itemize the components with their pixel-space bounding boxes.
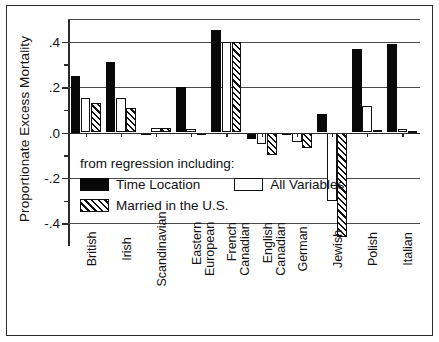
bar [302,133,312,149]
legend-lead-text: from regression including: [80,156,235,171]
x-axis-label-line: Jewish [332,230,345,268]
zero-baseline [68,133,420,134]
y-tick-label: -.4 [44,216,60,231]
x-axis-label: FrenchCanadian [209,249,244,337]
x-axis-label-line: German [297,226,310,271]
legend-row-2: Married in the U.S. [80,195,380,216]
bar [91,103,101,133]
legend-swatch-all-variables [234,178,263,191]
legend-label-married-in-us: Married in the U.S. [116,198,229,213]
legend-row-1: Time Location All Variables [80,174,380,195]
x-axis-label: EasternEuropean [174,249,209,337]
x-axis-label-line: Scandinavian [156,211,169,286]
y-tick-label: -.2 [44,170,60,185]
bar [106,62,116,132]
x-axis-label: British [68,249,103,337]
y-tick-label: .0 [49,125,60,140]
bar [211,30,221,132]
legend-label-time-location: Time Location [116,177,200,192]
bar [71,76,81,133]
x-axis-label: EnglishCanadian [244,249,279,337]
bar [126,108,136,133]
x-axis-label: Irish [103,249,138,337]
bar [176,87,186,132]
plot-area: .4.2.0-.2-.4 from regression including: … [68,19,420,246]
x-axis-label: German [279,249,314,337]
x-axis-label-line: Italian [402,232,415,265]
x-axis-label: Italian [385,249,420,337]
y-tick-label: .4 [49,34,60,49]
bar [387,44,397,133]
legend-label-all-variables: All Variables [270,177,344,192]
bar [116,98,126,132]
x-axis-label: Jewish [314,249,349,337]
x-axis-label-line: Eastern [191,222,204,276]
bar [317,114,327,132]
chart-legend: from regression including: Time Location… [80,153,380,216]
bar [352,49,362,133]
x-axis-label-line: English [262,222,275,276]
chart-figure: Proportionate Excess Mortality .4.2.0-.2… [0,0,439,342]
legend-swatch-time-location [80,178,109,191]
legend-lead-row: from regression including: [80,153,380,174]
x-axis-label-line: British [86,232,99,267]
bar [81,98,91,132]
x-axis-category-labels: BritishIrishScandinavianEasternEuropeanF… [68,249,420,337]
x-axis-label: Polish [350,249,385,337]
bar [222,42,232,133]
bar [362,106,372,132]
bar [267,133,277,156]
x-axis-label: Scandinavian [138,249,173,337]
bar [232,42,242,133]
x-axis-label-line: Polish [367,232,380,266]
y-axis-title: Proportionate Excess Mortality [17,9,37,249]
y-tick-label: .2 [49,80,60,95]
legend-swatch-married-in-us [80,199,109,212]
x-axis-label-line: Irish [121,237,134,261]
